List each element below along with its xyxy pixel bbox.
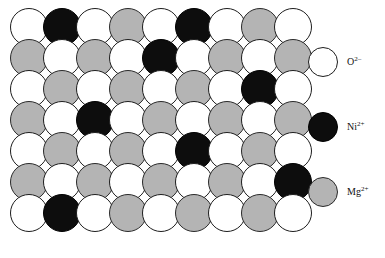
ion-oxide <box>274 194 312 232</box>
legend-entry-magnesium: Mg2+ <box>308 175 368 209</box>
legend-ion-symbol: Ni <box>347 121 357 132</box>
legend-ion-charge: 2+ <box>357 120 364 128</box>
legend-swatch-oxide <box>308 47 338 77</box>
legend-ion-symbol: Mg <box>347 186 361 197</box>
legend-swatch-nickel <box>308 112 338 142</box>
legend-entry-nickel: Ni2+ <box>308 110 364 144</box>
ion-lattice-grid <box>0 0 305 258</box>
legend-entry-oxide: O2– <box>308 45 361 79</box>
legend-ion-charge: 2+ <box>361 185 368 193</box>
legend-label-magnesium: Mg2+ <box>347 187 368 197</box>
legend: O2–Ni2+Mg2+ <box>308 0 385 258</box>
legend-ion-charge: 2– <box>354 55 361 63</box>
legend-label-oxide: O2– <box>347 57 361 67</box>
lattice-row <box>0 194 305 232</box>
legend-swatch-magnesium <box>308 177 338 207</box>
lattice-figure: O2–Ni2+Mg2+ <box>0 0 385 258</box>
legend-label-nickel: Ni2+ <box>347 122 364 132</box>
